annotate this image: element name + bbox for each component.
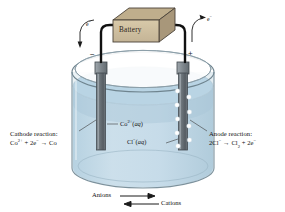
anode-cap — [177, 62, 189, 74]
cell-illustration — [0, 0, 285, 212]
beaker — [72, 50, 214, 188]
electrolysis-figure: Battery e− e− − + Cathode reaction: Co2+… — [0, 0, 285, 212]
gas-bubble — [187, 110, 192, 115]
positive-terminal-sign: + — [188, 50, 193, 58]
gas-bubble — [175, 89, 180, 94]
battery-label: Battery — [119, 26, 142, 34]
ion-migration-arrows — [120, 193, 159, 206]
cathode-reaction-equation: Co2+ + 2e− → Co — [10, 138, 58, 147]
gas-bubble — [187, 124, 192, 129]
gas-bubble — [175, 103, 180, 108]
battery — [113, 8, 175, 42]
anode-reaction-label: Anode reaction: 2Cl− → Cl2 + 2e− — [209, 130, 256, 149]
gas-bubble — [187, 138, 192, 143]
gas-bubble — [187, 95, 192, 100]
anions-arrow-head — [148, 193, 155, 198]
cation-species-label: Co2+(aq) — [120, 119, 143, 128]
negative-terminal-sign: − — [90, 51, 95, 59]
electron-arrow-right — [192, 18, 203, 42]
anode-reaction-equation: 2Cl− → Cl2 + 2e− — [209, 138, 256, 149]
anion-species-label: Cl−(aq) — [127, 137, 146, 146]
anode-reaction-title: Anode reaction: — [209, 130, 256, 138]
cathode-rod — [97, 73, 106, 150]
electron-arrow-left-head — [78, 42, 83, 49]
anode-rod — [179, 73, 188, 150]
cathode-cap — [95, 62, 107, 74]
cations-legend-label: Cations — [161, 199, 181, 207]
electron-label-left: e− — [86, 20, 91, 28]
electron-label-right: e− — [207, 15, 212, 23]
cathode-reaction-label: Cathode reaction: Co2+ + 2e− → Co — [10, 130, 58, 147]
cations-arrow-head — [124, 201, 131, 206]
gas-bubble — [175, 117, 180, 122]
cathode-electrode — [95, 62, 107, 150]
electron-arrow-right-head — [200, 15, 206, 20]
cathode-reaction-title: Cathode reaction: — [10, 130, 58, 138]
anions-legend-label: Anions — [92, 191, 111, 199]
gas-bubble — [175, 131, 180, 136]
gas-bubble — [176, 144, 181, 149]
